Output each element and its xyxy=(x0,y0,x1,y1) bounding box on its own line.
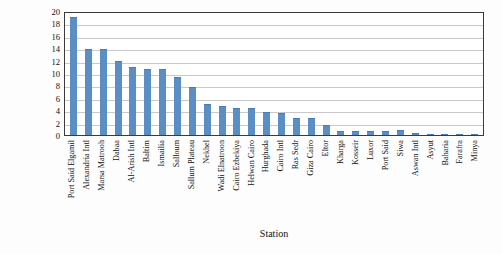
y-axis-tick-label: 2 xyxy=(56,119,60,128)
x-label-slot: Eltor xyxy=(319,138,334,224)
bar[interactable] xyxy=(367,131,374,135)
bar[interactable] xyxy=(129,67,136,135)
bar[interactable] xyxy=(308,118,315,135)
x-axis-tick-label: Giza Cairo xyxy=(307,140,315,176)
bar-slot xyxy=(437,13,452,135)
x-label-slot: Farafra xyxy=(453,138,468,224)
x-label-slot: Helwan Cairo xyxy=(244,138,259,224)
x-axis-tick-label: Wadi Elnatroon xyxy=(218,140,226,191)
bar[interactable] xyxy=(397,130,404,135)
bar[interactable] xyxy=(471,134,478,135)
bar-slot xyxy=(304,13,319,135)
y-axis-tick-label: 18 xyxy=(51,20,60,29)
y-axis-tick-labels: 02468101214161820 xyxy=(36,12,62,136)
bar[interactable] xyxy=(456,134,463,135)
bar[interactable] xyxy=(337,131,344,135)
x-axis-tick-label: Cairo Intl xyxy=(277,140,285,172)
bar[interactable] xyxy=(352,131,359,135)
x-label-slot: Port Said Elgamil xyxy=(65,138,80,224)
x-label-slot: Marsa Matrooh xyxy=(95,138,110,224)
x-label-slot: Cairo Intl xyxy=(274,138,289,224)
x-axis-tick-label: Hurghada xyxy=(262,140,270,172)
x-axis-tick-label: Farafra xyxy=(456,140,464,164)
x-label-slot: Minya xyxy=(468,138,483,224)
x-label-slot: Sallum Plateau xyxy=(184,138,199,224)
bar[interactable] xyxy=(219,106,226,135)
y-axis-tick-label: 10 xyxy=(51,70,60,79)
x-axis-tick-label: Marsa Matrooh xyxy=(98,140,106,191)
x-label-slot: Nekhel xyxy=(199,138,214,224)
bar[interactable] xyxy=(115,61,122,135)
x-axis-tick-label: Siwa xyxy=(397,140,405,156)
bar-slot xyxy=(363,13,378,135)
bar-slot xyxy=(111,13,126,135)
bar[interactable] xyxy=(189,87,196,135)
x-axis-tick-label: Ras Sedr xyxy=(292,140,300,169)
plot-area xyxy=(64,12,484,136)
bar[interactable] xyxy=(412,133,419,135)
x-axis-tick-label: Port Said xyxy=(382,140,390,170)
bar-slot xyxy=(274,13,289,135)
x-label-slot: Al-Arish Intl xyxy=(125,138,140,224)
x-label-slot: Asyut xyxy=(423,138,438,224)
x-label-slot: Siwa xyxy=(393,138,408,224)
x-label-slot: Baharia xyxy=(438,138,453,224)
x-axis-tick-label: Minya xyxy=(471,140,479,161)
bar-slot xyxy=(96,13,111,135)
bar-slot xyxy=(467,13,482,135)
bar[interactable] xyxy=(441,134,448,135)
bar-slot xyxy=(125,13,140,135)
y-axis-tick-label: 20 xyxy=(51,8,60,17)
bar-slot xyxy=(348,13,363,135)
x-axis-tick-label: Al-Arish Intl xyxy=(128,140,136,183)
x-label-slot: Luxor xyxy=(363,138,378,224)
bar[interactable] xyxy=(233,108,240,135)
bar[interactable] xyxy=(382,131,389,135)
x-label-slot: Aswan Intl xyxy=(408,138,423,224)
precipitation-bar-chart: Mean of Monthly Maximum Daily Precipitat… xyxy=(0,0,502,254)
bar[interactable] xyxy=(159,69,166,135)
x-axis-tick-label: Aswan Intl xyxy=(412,140,420,176)
bar-series xyxy=(65,13,483,135)
bar[interactable] xyxy=(278,113,285,135)
bar[interactable] xyxy=(293,118,300,135)
bar[interactable] xyxy=(427,134,434,135)
x-axis-tick-label: Ismailia xyxy=(158,140,166,166)
bar[interactable] xyxy=(204,104,211,135)
x-axis-tick-label: Nekhel xyxy=(203,140,211,164)
bar[interactable] xyxy=(174,77,181,135)
x-label-slot: Alexandria Intl xyxy=(80,138,95,224)
x-label-slot: Kharga xyxy=(334,138,349,224)
bar-slot xyxy=(244,13,259,135)
bar-slot xyxy=(215,13,230,135)
y-axis-tick-label: 8 xyxy=(56,82,60,91)
bar-slot xyxy=(170,13,185,135)
bar-slot xyxy=(259,13,274,135)
bar[interactable] xyxy=(263,112,270,135)
x-axis-tick-label: Dabaa xyxy=(113,140,121,161)
bar[interactable] xyxy=(144,69,151,135)
x-label-slot: Ras Sedr xyxy=(289,138,304,224)
bar[interactable] xyxy=(70,17,77,135)
bar-slot xyxy=(333,13,348,135)
x-axis-tick-label: Sallum Plateau xyxy=(188,140,196,189)
x-axis-tick-label: Luxor xyxy=(367,140,375,160)
x-label-slot: Port Said xyxy=(378,138,393,224)
bar[interactable] xyxy=(323,125,330,135)
bar-slot xyxy=(155,13,170,135)
x-label-slot: Hurghada xyxy=(259,138,274,224)
y-axis-tick-label: 12 xyxy=(51,57,60,66)
bar[interactable] xyxy=(248,108,255,135)
x-axis-tick-label: Helwan Cairo xyxy=(247,140,255,186)
x-label-slot: Ismailia xyxy=(155,138,170,224)
bar[interactable] xyxy=(85,49,92,135)
bar[interactable] xyxy=(100,49,107,135)
x-label-slot: Salloum xyxy=(169,138,184,224)
x-label-slot: Giza Cairo xyxy=(304,138,319,224)
bar-slot xyxy=(289,13,304,135)
x-axis-tick-label: Kosseir xyxy=(352,140,360,165)
x-axis-tick-label: Port Said Elgamil xyxy=(68,140,76,198)
x-axis-tick-label: Kharga xyxy=(337,140,345,164)
x-axis-tick-label: Salloum xyxy=(173,140,181,167)
x-label-slot: Wadi Elnatroon xyxy=(214,138,229,224)
